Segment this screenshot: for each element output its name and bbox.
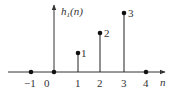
point-n2 — [98, 31, 103, 36]
point-n4 — [144, 70, 149, 75]
x-axis-label: n — [160, 76, 166, 88]
point-n-minus1 — [29, 70, 34, 75]
value-label-2: 2 — [104, 27, 110, 39]
value-label-1: 1 — [81, 47, 87, 59]
point-n0 — [52, 70, 57, 75]
tick-label-0: 0 — [44, 77, 50, 89]
tick-label-1: 1 — [75, 77, 81, 89]
y-axis-label: h1(n) — [61, 5, 83, 19]
value-label-3: 3 — [128, 7, 134, 19]
point-n1 — [76, 51, 81, 56]
tick-label-2: 2 — [97, 77, 103, 89]
tick-label-4: 4 — [143, 77, 149, 89]
stem-plot: h1(n) 1 2 3 −1 0 1 2 3 4 n — [0, 0, 169, 109]
tick-label-3: 3 — [121, 77, 127, 89]
tick-label-minus1: −1 — [24, 77, 36, 89]
point-n3 — [122, 11, 127, 16]
